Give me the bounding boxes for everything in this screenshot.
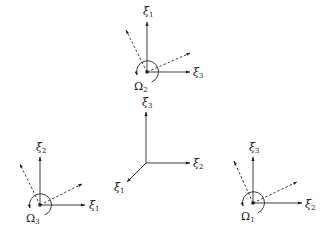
frame-bottom-right: ξ3 ξ2 Ω1 — [234, 141, 316, 224]
origin-dot — [251, 201, 255, 205]
dashed-rotated-axis-right — [253, 182, 297, 203]
axis-label-up: ξ2 — [36, 141, 47, 155]
axis-label-down-left: ξ1 — [114, 181, 125, 195]
axis-label-right: ξ3 — [193, 66, 204, 80]
frame-bottom-left: ξ2 ξ1 Ω3 — [20, 141, 100, 226]
axis-label-up: ξ3 — [249, 141, 260, 155]
rotation-label: Ω3 — [26, 212, 40, 226]
axis-label-up: ξ3 — [142, 96, 153, 110]
rotation-label: Ω2 — [134, 80, 148, 94]
axis-down-left-arrow — [127, 163, 146, 182]
origin-dot — [145, 70, 149, 74]
axis-label-right: ξ2 — [305, 198, 316, 212]
dashed-rotated-axis-up — [126, 30, 147, 72]
rotation-label: Ω1 — [241, 210, 255, 224]
axis-label-right: ξ1 — [89, 199, 100, 213]
frames-diagram: ξ1 ξ3 Ω2 ξ3 ξ2 ξ1 ξ2 ξ1 Ω3 ξ3 ξ2 Ω1 — [0, 0, 329, 226]
origin-dot — [38, 203, 42, 207]
dashed-rotated-axis-right — [40, 184, 82, 205]
dashed-rotated-axis-up — [20, 164, 40, 205]
axis-label-right: ξ2 — [193, 157, 204, 171]
axis-label-up: ξ1 — [143, 5, 154, 19]
dashed-rotated-axis-up — [234, 161, 253, 203]
frame-central: ξ3 ξ2 ξ1 — [114, 96, 204, 195]
frame-top: ξ1 ξ3 Ω2 — [126, 5, 204, 94]
